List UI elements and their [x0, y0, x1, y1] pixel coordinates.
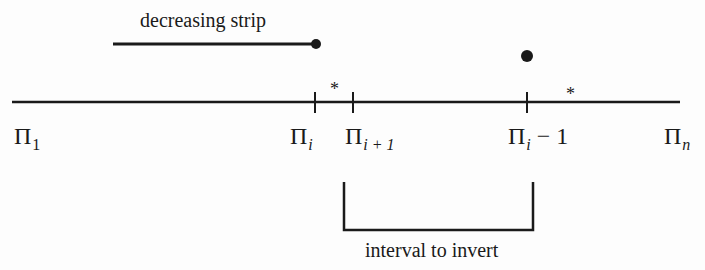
interval-bracket	[344, 182, 533, 230]
isolated-dot	[521, 50, 533, 62]
star-marker-1: *	[330, 80, 339, 98]
label-pi-i: Πi	[290, 124, 313, 153]
diagram-canvas: decreasing strip * * Π1 Πi Πi + 1 Πi − 1…	[0, 0, 705, 270]
strip-end-dot	[311, 39, 321, 49]
label-pi-i-plus-1: Πi + 1	[345, 124, 395, 153]
decreasing-strip-label: decreasing strip	[140, 10, 266, 30]
label-pi-i-minus-1: Πi − 1	[508, 124, 568, 153]
star-marker-2: *	[566, 85, 575, 103]
label-pi-1: Π1	[14, 124, 40, 153]
label-pi-n: Πn	[664, 124, 690, 153]
interval-to-invert-label: interval to invert	[365, 240, 498, 260]
